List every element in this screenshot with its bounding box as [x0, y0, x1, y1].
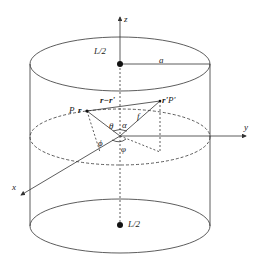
z-axis-label: z — [124, 15, 128, 24]
top-center-label: L/2 — [94, 47, 106, 56]
radius-label: a — [159, 56, 164, 65]
alpha-label: α — [122, 121, 127, 130]
y-axis-label: y — [244, 123, 248, 132]
difference-vector-label: r−r' — [100, 96, 115, 105]
x-axis-label: x — [12, 183, 16, 192]
point-p-vector-label: r — [78, 106, 82, 115]
theta-label: θ — [109, 122, 113, 131]
phi-big-label: φ — [121, 145, 126, 154]
f-label: f — [137, 112, 140, 121]
bottom-center-point — [117, 222, 123, 228]
cylinder-diagram: z L/2 a y x L/2 P r r' P' r−r' f θ α ϕ φ — [0, 0, 257, 258]
point-p-label: P — [69, 106, 75, 115]
vector-r-minus-r-prime — [87, 101, 160, 111]
point-p — [85, 109, 88, 112]
point-p-prime — [159, 100, 162, 103]
top-center-point — [117, 61, 123, 67]
bottom-center-label: L/2 — [128, 220, 140, 229]
pp-base-line — [120, 136, 160, 152]
point-pp-label: P' — [168, 96, 175, 105]
x-axis — [21, 136, 120, 195]
phi-small-label: ϕ — [98, 139, 103, 148]
vector-r — [87, 111, 120, 136]
